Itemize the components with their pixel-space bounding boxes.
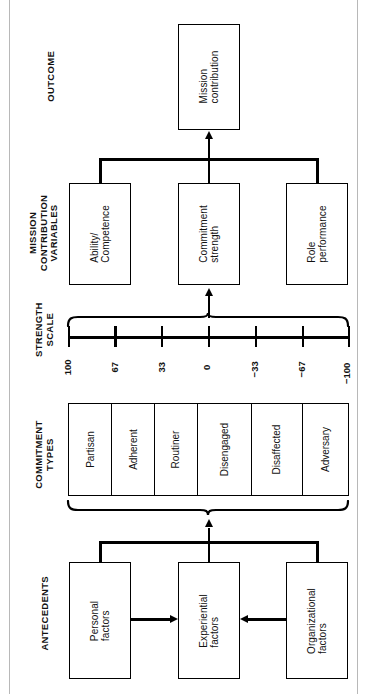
scale-tick-label-100: 100	[56, 350, 80, 384]
commitment-type-cell-routiner: Routiner	[155, 404, 198, 495]
bus-drop-antecedents-right	[316, 541, 319, 563]
section-label-outcome: OUTCOME	[40, 45, 62, 107]
scale-tick-6	[348, 326, 350, 347]
scale-tick-4	[255, 326, 257, 347]
bus-drop-mcv-left	[99, 158, 102, 184]
scale-tick-0	[68, 326, 70, 347]
bus-drop-mcv-right	[316, 158, 319, 184]
arrowhead-personal-to-experiential	[170, 615, 178, 623]
connector-antecedents-to-types	[208, 528, 211, 542]
connector-personal-to-experiential	[131, 618, 170, 621]
scale-tick-label-neg33: −33	[243, 352, 267, 386]
page-edge-rule-right	[357, 0, 358, 694]
scale-tick-2	[161, 326, 163, 347]
section-label-strength-scale: STRENGTH SCALE	[30, 300, 58, 360]
scale-tick-3	[208, 326, 210, 347]
diagram-canvas: OUTCOME Mission contribution MISSION CON…	[0, 0, 370, 694]
commitment-types-strip: Partisan Adherent Routiner Disengaged Di…	[68, 403, 349, 496]
scale-tick-label-33: 33	[150, 350, 174, 384]
bus-drop-antecedents-left	[99, 541, 102, 563]
commitment-type-cell-partisan: Partisan	[69, 404, 112, 495]
mcv-box-commitment-strength: Commitment strength	[178, 183, 240, 285]
scale-tick-1	[114, 326, 116, 347]
scale-tick-5	[302, 326, 304, 347]
arrowhead-organizational-to-experiential	[240, 615, 248, 623]
mcv-box-role-performance: Role performance	[286, 183, 348, 285]
scale-tick-label-67: 67	[103, 350, 127, 384]
commitment-type-cell-adversary: Adversary	[303, 404, 348, 495]
brace-strength-scale	[66, 313, 350, 327]
scale-tick-label-0: 0	[196, 350, 220, 384]
scale-tick-label-neg67: −67	[290, 352, 314, 386]
arrowhead-to-commitment-types	[205, 519, 213, 527]
page-edge-rule-left	[9, 0, 10, 694]
mcv-box-ability-competence: Ability/ Competence	[69, 183, 131, 285]
section-label-antecedents: ANTECEDENTS	[33, 570, 57, 656]
antecedent-box-experiential-factors: Experiential factors	[178, 562, 240, 679]
arrowhead-to-commitment-strength	[205, 288, 213, 296]
commitment-type-cell-adherent: Adherent	[112, 404, 155, 495]
outcome-box-mission-contribution: Mission contribution	[178, 24, 240, 130]
connector-mcv-to-outcome	[208, 139, 211, 159]
bus-drop-mcv-center	[208, 158, 211, 184]
antecedent-box-personal-factors: Personal factors	[69, 562, 131, 679]
antecedent-box-organizational-factors: Organizational factors	[286, 562, 348, 679]
connector-organizational-to-experiential	[248, 618, 286, 621]
commitment-type-cell-disengaged: Disengaged	[198, 404, 252, 495]
section-label-commitment-types: COMMITMENT TYPES	[30, 418, 58, 492]
bus-drop-antecedents-center	[208, 541, 211, 563]
section-label-mission-contribution-variables: MISSION CONTRIBUTION VARIABLES	[24, 196, 64, 270]
commitment-type-cell-disaffected: Disaffected	[252, 404, 303, 495]
brace-commitment-types	[66, 500, 350, 516]
arrowhead-to-mission-contribution	[205, 131, 213, 139]
